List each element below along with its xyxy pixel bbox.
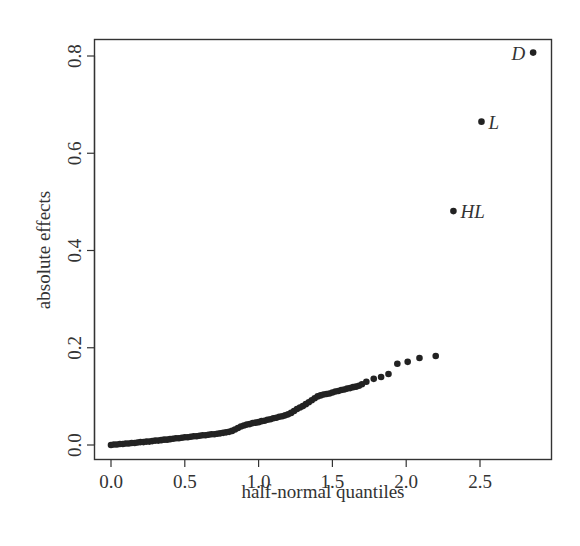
data-point [370,376,377,383]
half-normal-plot: 0.00.51.01.52.02.5 0.00.20.40.60.8 HLLD … [0,0,580,546]
y-tick-label: 0.8 [64,44,85,68]
x-tick-label: 0.0 [99,471,123,492]
y-tick-label: 0.0 [64,433,85,457]
point-label-d: D [510,43,525,64]
labeled-point-l [478,118,485,125]
x-axis-title: half-normal quantiles [241,481,404,502]
data-point [363,378,370,385]
data-point [416,355,423,362]
data-point [432,353,439,360]
data-points [108,353,439,449]
data-point [394,360,401,367]
y-axis-title: absolute effects [33,191,54,309]
point-label-hl: HL [459,201,484,222]
labeled-point-hl [450,208,457,215]
labeled-points: HLLD [450,43,536,223]
data-point [385,371,392,378]
y-axis: 0.00.20.40.60.8 [64,44,95,457]
data-point [378,374,385,381]
labeled-point-d [530,49,537,56]
y-tick-label: 0.4 [64,238,85,262]
y-tick-label: 0.2 [64,336,85,360]
point-label-l: L [487,112,499,133]
x-tick-label: 2.5 [468,471,492,492]
data-point [404,359,411,366]
y-tick-label: 0.6 [64,141,85,165]
x-tick-label: 0.5 [173,471,197,492]
